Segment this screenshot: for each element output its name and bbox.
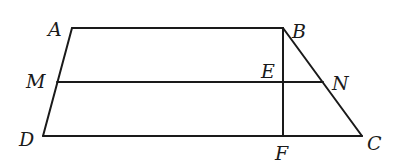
label-M: M: [25, 70, 46, 92]
trapezoid-diagram: A B M E N D F C: [0, 0, 405, 165]
label-E: E: [260, 60, 275, 82]
label-F: F: [274, 142, 289, 164]
point-labels: A B M E N D F C: [18, 18, 382, 164]
segments: [43, 28, 362, 136]
label-D: D: [18, 128, 34, 150]
label-C: C: [367, 132, 382, 154]
label-B: B: [291, 20, 306, 42]
label-A: A: [46, 18, 62, 40]
label-N: N: [331, 72, 350, 94]
